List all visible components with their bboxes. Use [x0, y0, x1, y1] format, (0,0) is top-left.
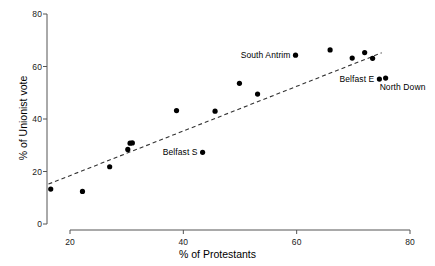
point-label: South Antrim: [241, 50, 291, 60]
data-points: [48, 47, 388, 194]
data-point: [237, 81, 242, 86]
point-label: North Down: [380, 82, 426, 92]
x-axis-tick-label: 80: [405, 237, 415, 247]
data-point: [255, 91, 260, 96]
data-point: [350, 56, 355, 61]
plot-area: 020406080 20406080 Belfast SSouth Antrim…: [0, 0, 435, 266]
y-axis-title: % of Unionist vote: [17, 48, 29, 188]
data-point: [293, 53, 298, 58]
data-point: [174, 108, 179, 113]
x-axis-title: % of Protestants: [0, 248, 435, 260]
data-point: [370, 56, 375, 61]
trendline: [48, 53, 381, 184]
data-point: [107, 164, 112, 169]
y-axis-tick-label: 80: [14, 9, 42, 19]
x-axis-tick-label: 60: [292, 237, 302, 247]
plot-canvas: [0, 0, 435, 266]
data-point: [48, 186, 53, 191]
point-label: Belfast E: [339, 74, 374, 84]
data-point: [200, 150, 205, 155]
y-axis-tick-label: 0: [14, 219, 42, 229]
data-point: [362, 50, 367, 55]
data-point: [125, 147, 130, 152]
scatter-chart: 020406080 20406080 Belfast SSouth Antrim…: [0, 0, 435, 266]
data-point: [383, 75, 388, 80]
data-point: [80, 189, 85, 194]
x-axis-tick-label: 40: [179, 237, 189, 247]
data-point: [130, 140, 135, 145]
data-point: [328, 47, 333, 52]
x-axis-tick-label: 20: [65, 237, 75, 247]
data-point: [212, 109, 217, 114]
point-label: Belfast S: [163, 147, 198, 157]
data-point: [377, 77, 382, 82]
axes-group: [43, 14, 410, 234]
trendline-path: [48, 53, 381, 184]
